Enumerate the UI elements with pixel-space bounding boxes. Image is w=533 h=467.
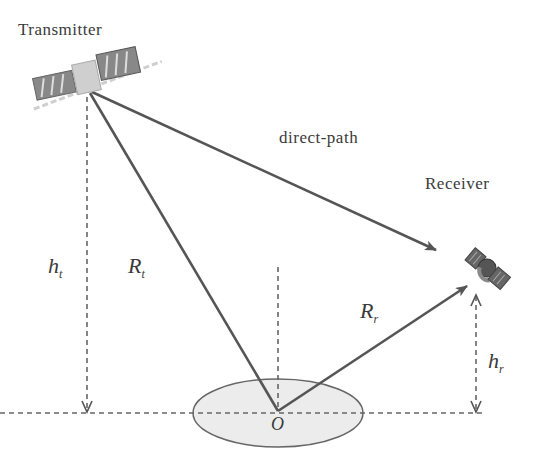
receiver-label: Receiver xyxy=(425,174,489,194)
R-t-label: Rt xyxy=(128,253,145,282)
h-r-label: hr xyxy=(488,348,504,377)
h-t-label: ht xyxy=(48,253,62,282)
direct-path-line xyxy=(92,92,436,250)
origin-label: O xyxy=(271,414,284,435)
receiver-satellite-icon xyxy=(463,247,511,292)
R-t-line xyxy=(90,93,278,411)
R-r-label: Rr xyxy=(360,298,378,327)
direct-path-label: direct-path xyxy=(279,128,358,148)
transmitter-satellite-icon xyxy=(26,42,166,109)
diagram-canvas xyxy=(0,0,533,467)
transmitter-label: Transmitter xyxy=(18,20,102,40)
